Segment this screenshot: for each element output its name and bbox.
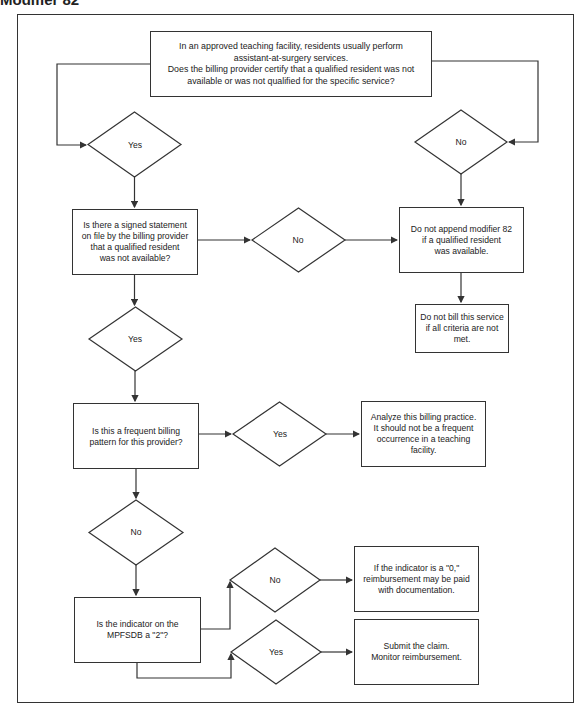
box-line: occurrence in a teaching — [371, 434, 477, 445]
diamond-label-start-no: No — [456, 137, 467, 147]
box-line: pattern for this provider? — [89, 437, 182, 448]
box-line: reimbursement may be paid — [363, 574, 470, 585]
box-line: Does the billing provider certify that a… — [168, 64, 414, 76]
diamond-label-frequent-yes: Yes — [273, 429, 287, 439]
box-line: if a qualified resident — [411, 235, 512, 246]
box-line: In an approved teaching facility, reside… — [168, 41, 414, 53]
frequent-billing-box: Is this a frequent billing pattern for t… — [73, 403, 199, 469]
diamond-label-signed-yes: Yes — [128, 334, 142, 344]
box-line: facility. — [371, 445, 477, 456]
box-line: Monitor reimbursement. — [371, 652, 462, 663]
indicator-zero-box: If the indicator is a "0," reimbursement… — [354, 546, 479, 612]
diamond-label-signed-no: No — [293, 235, 304, 245]
box-line: It should not be a frequent — [371, 423, 477, 434]
diamond-label-indicator-no: No — [270, 575, 281, 585]
diamond-label-start-yes: Yes — [128, 140, 142, 150]
box-line: Is this a frequent billing — [89, 426, 182, 437]
analyze-box: Analyze this billing practice. It should… — [361, 401, 486, 467]
box-line: If the indicator is a "0," — [363, 563, 470, 574]
box-line: that a qualified resident — [82, 242, 189, 253]
box-line: met. — [420, 334, 504, 345]
box-line: MPFSDB a "2"? — [96, 630, 178, 641]
start-question-box: In an approved teaching facility, reside… — [150, 31, 432, 97]
box-line: Is the indicator on the — [96, 619, 178, 630]
diamond-label-frequent-no: No — [131, 527, 142, 537]
diamond-label-indicator-yes: Yes — [269, 647, 283, 657]
box-line: available or was not qualified for the s… — [168, 76, 414, 88]
box-line: Analyze this billing practice. — [371, 412, 477, 423]
box-line: was available. — [411, 246, 512, 257]
signed-statement-box: Is there a signed statement on file by t… — [72, 209, 198, 275]
do-not-bill-box: Do not bill this service if all criteria… — [415, 304, 509, 353]
indicator-question-box: Is the indicator on the MPFSDB a "2"? — [74, 597, 201, 663]
box-line: on file by the billing provider — [82, 231, 189, 242]
box-line: Is there a signed statement — [82, 220, 189, 231]
box-line: with documentation. — [363, 585, 470, 596]
submit-claim-box: Submit the claim. Monitor reimbursement. — [354, 619, 479, 685]
box-line: Submit the claim. — [371, 641, 462, 652]
box-line: was not available? — [82, 253, 189, 264]
do-not-append-box: Do not append modifier 82 if a qualified… — [399, 207, 524, 273]
box-line: Do not bill this service — [420, 312, 504, 323]
box-line: assistant-at-surgery services. — [168, 53, 414, 65]
box-line: Do not append modifier 82 — [411, 224, 512, 235]
box-line: if all criteria are not — [420, 323, 504, 334]
